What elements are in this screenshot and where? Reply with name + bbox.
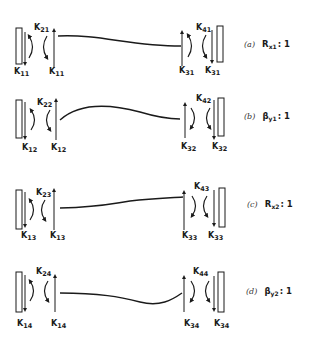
- left-wall-icon: [16, 190, 22, 229]
- moment-arc-icon: [203, 35, 207, 57]
- panel-caption: (b) βy1: 1: [244, 104, 290, 123]
- right-wall-icon: [218, 272, 224, 312]
- moment-arc-icon: [45, 281, 49, 301]
- stiffness-label: K34: [184, 319, 200, 330]
- stiffness-label: K32: [181, 142, 196, 153]
- stiffness-label: K22: [37, 98, 52, 109]
- panel-a: K21 K11 K11 K41 K31 K31 (a) Rx1: 1: [14, 23, 290, 78]
- moment-arc-icon: [44, 36, 48, 58]
- moment-arc-icon: [204, 196, 208, 216]
- stiffness-label: K11: [49, 67, 65, 78]
- right-wall-icon: [219, 188, 225, 227]
- stiffness-label: K21: [34, 23, 50, 34]
- stiffness-label: K14: [51, 319, 67, 330]
- panel-b: K22 K12 K12 K42 K32 K32 (b) βy1: 1: [16, 94, 290, 154]
- stiffness-label: K31: [179, 66, 195, 77]
- stiffness-label: K34: [214, 319, 230, 330]
- panel-c: K23 K13 K13 K43 K33 K33 (c) Rx2: 1: [16, 182, 293, 242]
- stiffness-label: K23: [36, 188, 51, 199]
- right-wall-icon: [218, 98, 224, 136]
- stiffness-label: K13: [50, 231, 65, 242]
- moment-arc-icon: [192, 196, 196, 216]
- beam-deflection-curve: [60, 293, 182, 304]
- stiffness-label: K33: [208, 231, 223, 242]
- moment-arc-icon: [30, 281, 34, 301]
- stiffness-label: K12: [22, 143, 37, 154]
- beam-deflection-curve: [60, 106, 180, 120]
- moment-arc-icon: [30, 200, 34, 220]
- stiffness-label: K42: [196, 94, 211, 105]
- right-wall-icon: [217, 26, 223, 62]
- left-wall-icon: [16, 100, 22, 138]
- beam-stiffness-diagram: K21 K11 K11 K41 K31 K31 (a) Rx1: 1 K22 K…: [0, 0, 309, 338]
- panel-caption: (c) Rx2: 1: [247, 192, 293, 211]
- left-wall-icon: [16, 28, 22, 64]
- stiffness-label: K12: [51, 143, 66, 154]
- stiffness-label: K33: [182, 231, 197, 242]
- moment-arc-icon: [47, 110, 51, 130]
- stiffness-label: K32: [212, 142, 227, 153]
- moment-arc-icon: [42, 200, 46, 220]
- left-wall-icon: [16, 272, 22, 312]
- moment-arc-icon: [188, 35, 192, 57]
- panel-d: K24 K14 K14 K44 K34 K34 (d) βy2: 1: [16, 267, 292, 330]
- moment-arc-icon: [29, 36, 33, 58]
- stiffness-label: K41: [196, 23, 212, 34]
- moment-arc-icon: [31, 110, 35, 130]
- panel-caption: (a) Rx1: 1: [244, 32, 290, 51]
- moment-arc-icon: [207, 108, 211, 128]
- stiffness-label: K24: [36, 267, 52, 278]
- moment-arc-icon: [206, 281, 210, 301]
- stiffness-label: K14: [17, 319, 33, 330]
- stiffness-label: K31: [205, 66, 221, 77]
- beam-deflection-curve: [60, 197, 183, 208]
- moment-arc-icon: [191, 108, 195, 128]
- stiffness-label: K13: [21, 231, 36, 242]
- stiffness-label: K11: [14, 67, 30, 78]
- beam-deflection-curve: [58, 36, 181, 46]
- stiffness-label: K43: [194, 182, 209, 193]
- stiffness-label: K44: [193, 267, 209, 278]
- panel-caption: (d) βy2: 1: [246, 279, 292, 298]
- moment-arc-icon: [191, 281, 195, 301]
